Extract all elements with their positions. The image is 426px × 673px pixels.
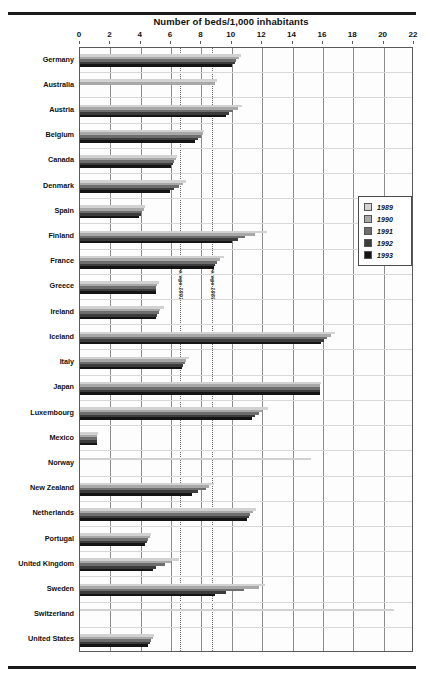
chart-row	[80, 376, 412, 401]
chart-row	[80, 124, 412, 149]
chart-row	[80, 451, 412, 476]
x-tick-label-22: 22	[409, 30, 418, 39]
legend-entry-1991: 1991	[364, 225, 411, 237]
y-axis-label-austria: Austria	[49, 105, 74, 114]
y-axis-label-luxembourg: Luxembourg	[30, 408, 74, 417]
bar-united-states-1993	[80, 644, 148, 647]
y-axis-label-australia: Australia	[43, 80, 74, 89]
chart-row	[80, 98, 412, 123]
chart-row	[80, 552, 412, 577]
bar-iceland-1993	[80, 342, 321, 345]
y-axis-label-italy: Italy	[60, 357, 74, 366]
bar-sweden-1993	[80, 594, 215, 597]
legend-label-1991: 1991	[377, 228, 393, 235]
y-axis-label-japan: Japan	[53, 382, 74, 391]
x-tick-mark-12	[261, 41, 262, 44]
chart-row	[80, 325, 412, 350]
x-tick-label-10: 10	[226, 30, 235, 39]
y-axis-label-ireland: Ireland	[50, 307, 74, 316]
bar-japan-1993	[80, 392, 320, 395]
x-tick-mark-22	[413, 41, 414, 44]
chart-title: Number of beds/1,000 inhabitants	[0, 16, 426, 27]
y-axis-label-spain: Spain	[54, 206, 74, 215]
x-tick-mark-14	[292, 41, 293, 44]
bar-united-kingdom-1993	[80, 569, 153, 572]
bar-finland-1993	[80, 241, 232, 244]
plot-area: Average 1993Average 1989	[79, 47, 413, 652]
legend-swatch-1992	[364, 239, 372, 247]
y-axis-label-norway: Norway	[48, 458, 74, 467]
chart-row	[80, 628, 412, 653]
bar-luxembourg-1993	[80, 417, 252, 420]
bar-canada-1993	[80, 165, 171, 168]
x-axis-ticks: 0246810121416182022	[0, 30, 426, 44]
x-tick-mark-10	[231, 41, 232, 44]
x-tick-mark-16	[322, 41, 323, 44]
bar-france-1993	[80, 266, 214, 269]
x-tick-label-2: 2	[107, 30, 111, 39]
y-axis-label-portugal: Portugal	[45, 534, 74, 543]
x-tick-label-0: 0	[77, 30, 81, 39]
x-tick-label-12: 12	[257, 30, 266, 39]
chart-row	[80, 73, 412, 98]
x-tick-label-14: 14	[287, 30, 296, 39]
bar-italy-1993	[80, 367, 182, 370]
y-axis-label-mexico: Mexico	[50, 433, 74, 442]
chart-row	[80, 351, 412, 376]
x-tick-mark-2	[109, 41, 110, 44]
y-axis-label-switzerland: Switzerland	[34, 609, 74, 618]
y-axis-label-new-zealand: New Zealand	[30, 483, 74, 492]
y-axis-label-denmark: Denmark	[43, 181, 74, 190]
chart-row	[80, 300, 412, 325]
bar-germany-1993	[80, 64, 232, 67]
x-tick-label-18: 18	[348, 30, 357, 39]
bar-spain-1993	[80, 216, 139, 219]
x-tick-mark-18	[352, 41, 353, 44]
chart-row	[80, 275, 412, 300]
bar-ireland-1993	[80, 317, 156, 320]
x-tick-label-20: 20	[378, 30, 387, 39]
y-axis-label-netherlands: Netherlands	[32, 508, 74, 517]
bar-belgium-1993	[80, 140, 195, 143]
bar-netherlands-1993	[80, 518, 247, 521]
legend-entry-1990: 1990	[364, 213, 411, 225]
chart-row	[80, 502, 412, 527]
x-tick-mark-0	[79, 41, 80, 44]
x-tick-mark-6	[170, 41, 171, 44]
bar-new-zealand-1993	[80, 493, 192, 496]
legend-swatch-1991	[364, 227, 372, 235]
chart-row	[80, 48, 412, 73]
legend-swatch-1989	[364, 203, 372, 211]
x-tick-label-8: 8	[198, 30, 202, 39]
y-axis-label-france: France	[50, 256, 74, 265]
y-axis-label-sweden: Sweden	[47, 584, 74, 593]
x-tick-label-4: 4	[137, 30, 141, 39]
bar-portugal-1993	[80, 543, 145, 546]
chart-row	[80, 401, 412, 426]
chart-figure: Number of beds/1,000 inhabitants 0246810…	[0, 0, 426, 673]
bar-greece-1993	[80, 291, 156, 294]
bar-norway-1989	[80, 458, 311, 461]
chart-legend: 19891990199119921993	[358, 196, 412, 266]
bar-mexico-1993	[80, 443, 97, 446]
legend-label-1993: 1993	[377, 252, 393, 259]
y-axis-label-united-states: United States	[28, 634, 74, 643]
x-tick-mark-20	[383, 41, 384, 44]
chart-row	[80, 577, 412, 602]
chart-row	[80, 477, 412, 502]
x-tick-mark-4	[140, 41, 141, 44]
legend-label-1992: 1992	[377, 240, 393, 247]
bar-australia-1990	[80, 82, 215, 85]
legend-swatch-1990	[364, 215, 372, 223]
y-axis-label-germany: Germany	[43, 55, 74, 64]
y-axis-label-belgium: Belgium	[46, 130, 74, 139]
bar-switzerland-1989	[80, 609, 394, 612]
bar-denmark-1993	[80, 190, 170, 193]
chart-row	[80, 527, 412, 552]
x-tick-label-6: 6	[168, 30, 172, 39]
y-axis-label-greece: Greece	[50, 281, 74, 290]
y-axis-label-iceland: Iceland	[49, 332, 74, 341]
x-tick-mark-8	[200, 41, 201, 44]
legend-entry-1993: 1993	[364, 249, 411, 261]
y-axis-label-united-kingdom: United Kingdom	[18, 559, 74, 568]
